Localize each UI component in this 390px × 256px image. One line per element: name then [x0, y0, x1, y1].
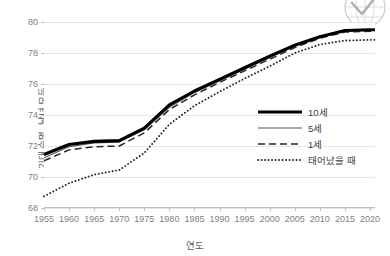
x-tick-label: 1965 [84, 215, 104, 224]
y-tick-label: 78 [8, 49, 38, 58]
x-tick-label: 1995 [235, 215, 255, 224]
x-tick-mark [320, 208, 321, 211]
legend: 10세5세1세태어났을 때 [258, 104, 384, 168]
legend-key-swatch [258, 154, 302, 166]
x-tick-mark [119, 208, 120, 211]
x-tick-mark [270, 208, 271, 211]
x-tick-mark [295, 208, 296, 211]
y-tick-label: 80 [8, 18, 38, 27]
y-tick-label: 70 [8, 173, 38, 182]
legend-key-swatch [258, 122, 302, 134]
x-tick-mark [94, 208, 95, 211]
legend-item[interactable]: 태어났을 때 [258, 152, 384, 168]
x-tick-mark [44, 208, 45, 211]
x-tick-mark [169, 208, 170, 211]
x-tick-mark [144, 208, 145, 211]
y-tick-label: 68 [8, 204, 38, 213]
x-tick-label: 2010 [310, 215, 330, 224]
x-tick-mark [370, 208, 371, 211]
x-tick-label: 1960 [59, 215, 79, 224]
y-tick-label: 72 [8, 142, 38, 151]
x-tick-label: 1985 [184, 215, 204, 224]
x-tick-label: 1990 [210, 215, 230, 224]
y-tick-label: 74 [8, 111, 38, 120]
legend-key-swatch [258, 106, 302, 118]
x-axis-title: 연도 [0, 238, 390, 252]
legend-label: 5세 [308, 121, 322, 135]
x-tick-mark [194, 208, 195, 211]
legend-item[interactable]: 10세 [258, 104, 384, 120]
y-tick-label: 76 [8, 80, 38, 89]
x-tick-label: 1955 [34, 215, 54, 224]
legend-label: 태어났을 때 [308, 153, 356, 167]
x-tick-mark [345, 208, 346, 211]
life-expectancy-line-chart: 기대 수명, 남녀 모두 68707274767880 195519601965… [0, 0, 390, 256]
x-tick-label: 1970 [109, 215, 129, 224]
legend-label: 1세 [308, 137, 322, 151]
x-tick-label: 1975 [134, 215, 154, 224]
legend-key-swatch [258, 138, 302, 150]
x-tick-label: 2000 [260, 215, 280, 224]
legend-label: 10세 [308, 105, 328, 119]
x-tick-label: 2020 [360, 215, 380, 224]
x-tick-mark [245, 208, 246, 211]
legend-item[interactable]: 5세 [258, 120, 384, 136]
x-tick-label: 2005 [285, 215, 305, 224]
x-tick-label: 1980 [159, 215, 179, 224]
x-tick-label: 2015 [335, 215, 355, 224]
legend-item[interactable]: 1세 [258, 136, 384, 152]
x-tick-mark [69, 208, 70, 211]
x-tick-mark [220, 208, 221, 211]
